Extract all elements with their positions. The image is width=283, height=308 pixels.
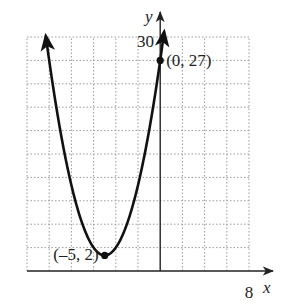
x-max-tick-label: 8 (245, 283, 254, 302)
y-max-tick-label: 30 (137, 32, 154, 51)
parabola-chart: (–5, 2)(0, 27) x y 8 30 (0, 0, 283, 308)
grid-lines (27, 37, 249, 271)
x-axis-label: x (262, 278, 271, 297)
point-marker (157, 57, 164, 64)
point-marker (101, 252, 108, 259)
chart-canvas: (–5, 2)(0, 27) x y 8 30 (0, 0, 283, 308)
point-label: (0, 27) (166, 51, 211, 70)
y-axis-label: y (143, 7, 153, 26)
parabola-curve (46, 32, 164, 255)
point-label: (–5, 2) (53, 245, 98, 264)
